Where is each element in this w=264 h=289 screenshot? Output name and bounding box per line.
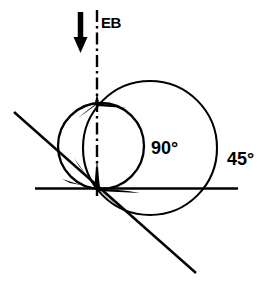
diagonal-line-45: [14, 112, 196, 273]
angle-inner-label: 90°: [151, 138, 178, 158]
beam-label: EB: [101, 14, 122, 31]
angle-outer-label: 45°: [227, 149, 254, 169]
large-circle: [83, 81, 217, 215]
down-arrow-icon: [74, 12, 88, 53]
geometry-diagram: EB 90° 45°: [0, 0, 264, 289]
diagram-canvas: EB 90° 45°: [0, 0, 264, 289]
small-circle: [58, 103, 144, 189]
